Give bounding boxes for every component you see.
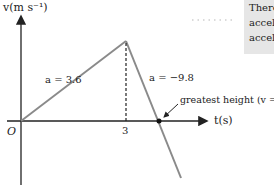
y-axis-label: v(m s⁻¹) <box>3 1 48 14</box>
x-axis-label: t(s) <box>214 114 233 127</box>
annotation-arrow <box>164 104 178 117</box>
velocity-time-graph <box>0 0 274 185</box>
side-text-line: There <box>244 0 274 15</box>
greatest-height-point <box>157 119 162 124</box>
segment2-label: a = −9.8 <box>149 72 194 83</box>
side-text-line: accel <box>244 15 274 30</box>
segment1-label: a = 3.6 <box>45 74 82 85</box>
side-text-box: There accel accel <box>244 0 274 54</box>
greatest-height-annotation: greatest height (v = 0) <box>180 94 274 105</box>
side-text-line: accel <box>244 30 274 45</box>
x-tick-3: 3 <box>122 125 128 136</box>
origin-label: O <box>7 125 16 138</box>
